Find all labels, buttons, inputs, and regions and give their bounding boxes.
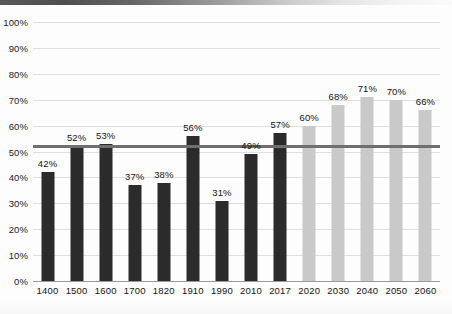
bar-value-label: 53% (96, 130, 115, 141)
bar (274, 133, 287, 281)
bar-group: 38%1820 (149, 22, 178, 281)
scan-artifact-bottom (0, 300, 452, 314)
bar (419, 110, 432, 281)
bar-group: 49%2010 (237, 22, 266, 281)
bar-group: 71%2040 (353, 22, 382, 281)
y-axis-tick-label: 100% (3, 17, 28, 28)
x-axis-line (33, 281, 440, 282)
x-axis-tick-label: 2050 (385, 285, 407, 296)
bar-value-label: 57% (270, 119, 289, 130)
bar (157, 183, 170, 281)
bar (70, 146, 83, 281)
x-axis-tick-label: 2040 (356, 285, 378, 296)
bar (99, 144, 112, 281)
x-axis-tick-label: 2030 (327, 285, 349, 296)
y-axis-tick-label: 90% (9, 42, 28, 53)
x-axis-tick-label: 1910 (182, 285, 204, 296)
scan-artifact-top (0, 0, 452, 5)
bar (361, 97, 374, 281)
bar-group: 31%1990 (207, 22, 236, 281)
x-axis-tick-label: 1500 (66, 285, 88, 296)
bar-value-label: 49% (241, 140, 260, 151)
bar-value-label: 31% (212, 187, 231, 198)
bar-group: 57%2017 (266, 22, 295, 281)
bar-group: 66%2060 (411, 22, 440, 281)
bar (245, 154, 258, 281)
y-axis-tick-label: 50% (9, 146, 28, 157)
bar (128, 185, 141, 281)
bar (332, 105, 345, 281)
bar-value-label: 52% (67, 132, 86, 143)
bars-group: 42%140052%150053%160037%170038%182056%19… (33, 22, 440, 281)
bar-group: 68%2030 (324, 22, 353, 281)
x-axis-tick-label: 2060 (414, 285, 436, 296)
bar-value-label: 60% (300, 112, 319, 123)
bar-group: 37%1700 (120, 22, 149, 281)
reference-line (33, 145, 440, 148)
x-axis-tick-label: 1820 (153, 285, 175, 296)
bar-value-label: 42% (38, 158, 57, 169)
bar-group: 42%1400 (33, 22, 62, 281)
bar (390, 100, 403, 281)
y-axis-tick-label: 20% (9, 224, 28, 235)
x-axis-tick-label: 2017 (269, 285, 291, 296)
bar (303, 126, 316, 281)
bar-value-label: 71% (358, 83, 377, 94)
y-axis-tick-label: 0% (14, 276, 28, 287)
bar-group: 56%1910 (178, 22, 207, 281)
bar-group: 60%2020 (295, 22, 324, 281)
y-axis-tick-label: 10% (9, 250, 28, 261)
bar-group: 52%1500 (62, 22, 91, 281)
y-axis-tick-label: 70% (9, 94, 28, 105)
bar-group: 53%1600 (91, 22, 120, 281)
bar-value-label: 38% (154, 169, 173, 180)
y-axis-tick-label: 80% (9, 68, 28, 79)
bar (41, 172, 54, 281)
bar-value-label: 66% (416, 96, 435, 107)
bar (186, 136, 199, 281)
x-axis-tick-label: 2020 (298, 285, 320, 296)
bar-value-label: 37% (125, 171, 144, 182)
plot-area: 0%10%20%30%40%50%60%70%80%90%100% 42%140… (33, 22, 440, 281)
x-axis-tick-label: 2010 (240, 285, 262, 296)
bar (215, 201, 228, 281)
bar-value-label: 68% (329, 91, 348, 102)
bar-value-label: 70% (387, 86, 406, 97)
y-axis-tick-label: 40% (9, 172, 28, 183)
x-axis-tick-label: 1600 (95, 285, 117, 296)
bar-value-label: 56% (183, 122, 202, 133)
bar-group: 70%2050 (382, 22, 411, 281)
y-axis-tick-label: 60% (9, 120, 28, 131)
bar-chart: 0%10%20%30%40%50%60%70%80%90%100% 42%140… (0, 0, 452, 314)
x-axis-tick-label: 1990 (211, 285, 233, 296)
x-axis-tick-label: 1700 (124, 285, 146, 296)
x-axis-tick-label: 1400 (37, 285, 59, 296)
y-axis-tick-label: 30% (9, 198, 28, 209)
